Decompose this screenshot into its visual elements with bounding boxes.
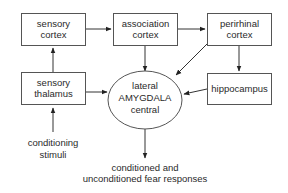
sensory-cortex-label-line1: sensory bbox=[37, 18, 71, 29]
perirhinal-cortex-label-line2: cortex bbox=[227, 29, 253, 40]
node-hippocampus: hippocampus bbox=[208, 74, 272, 105]
perirhinal-cortex-label-line1: perirhinal bbox=[220, 18, 259, 29]
association-cortex-label-line1: association bbox=[122, 18, 170, 29]
amygdala-label-line2: AMYGDALA bbox=[119, 92, 172, 103]
node-sensory-thalamus: sensory thalamus bbox=[22, 73, 86, 105]
sensory-cortex-label-line2: cortex bbox=[41, 29, 67, 40]
sensory-thalamus-label-line1: sensory bbox=[37, 77, 71, 88]
edge-perirhinal-cortex-to-amygdala bbox=[176, 44, 207, 75]
association-cortex-label-line2: cortex bbox=[133, 29, 159, 40]
conditioning-stimuli-line1: conditioning bbox=[28, 137, 79, 148]
sensory-thalamus-label-line2: thalamus bbox=[34, 88, 73, 99]
amygdala-label-line1: lateral bbox=[132, 80, 158, 91]
amygdala-label-line3: central bbox=[131, 104, 160, 115]
fear-responses-line2: unconditioned fear responses bbox=[83, 173, 208, 184]
input-label: conditioning stimuli bbox=[28, 137, 79, 160]
hippocampus-label: hippocampus bbox=[211, 83, 268, 94]
edge-hippocampus-to-amygdala bbox=[184, 89, 207, 94]
node-sensory-cortex: sensory cortex bbox=[22, 14, 86, 46]
conditioning-stimuli-line2: stimuli bbox=[40, 149, 67, 160]
fear-responses-line1: conditioned and bbox=[111, 162, 178, 173]
node-amygdala: lateral AMYGDALA central bbox=[108, 71, 182, 129]
output-label: conditioned and unconditioned fear respo… bbox=[83, 162, 208, 184]
node-association-cortex: association cortex bbox=[114, 14, 178, 46]
node-perirhinal-cortex: perirhinal cortex bbox=[208, 14, 272, 46]
fear-circuit-diagram: sensory cortex association cortex perirh… bbox=[0, 0, 288, 193]
